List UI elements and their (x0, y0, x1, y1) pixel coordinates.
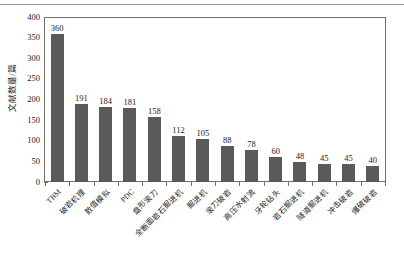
bar-value-label: 60 (264, 147, 288, 156)
bar-item: 112 (166, 18, 190, 182)
bar-item: 48 (288, 18, 312, 182)
y-tick-label: 400 (0, 13, 44, 21)
bar-item: 78 (239, 18, 263, 182)
bar-value-label: 45 (312, 154, 336, 163)
bar (75, 104, 88, 182)
bar-item: 191 (69, 18, 93, 182)
bar-value-label: 181 (118, 98, 142, 107)
bar-item: 40 (361, 18, 385, 182)
bar-item: 60 (264, 18, 288, 182)
bar-item: 158 (142, 18, 166, 182)
bar (148, 117, 161, 182)
y-tick-label: 0 (0, 178, 44, 186)
bar-item: 45 (336, 18, 360, 182)
bar-item: 360 (45, 18, 69, 182)
bar-value-label: 360 (45, 24, 69, 33)
bar-value-label: 48 (288, 152, 312, 161)
bar-item: 45 (312, 18, 336, 182)
bar-value-label: 45 (336, 154, 360, 163)
bar-value-label: 158 (142, 107, 166, 116)
bar-item: 181 (118, 18, 142, 182)
bar-value-label: 184 (94, 97, 118, 106)
bar (51, 34, 64, 182)
bar-value-label: 105 (191, 129, 215, 138)
y-tick-label: 200 (0, 95, 44, 103)
y-tick-label: 150 (0, 116, 44, 124)
bar-chart-figure: 文献数量/篇 050100150200250300350400 36019118… (0, 0, 404, 259)
bar-value-label: 112 (166, 126, 190, 135)
bar-value-label: 88 (215, 136, 239, 145)
y-tick-label: 100 (0, 136, 44, 144)
y-tick-label: 250 (0, 74, 44, 82)
y-tick-label: 350 (0, 33, 44, 41)
y-tick-label: 300 (0, 54, 44, 62)
y-tick-label: 50 (0, 157, 44, 165)
bar-item: 184 (94, 18, 118, 182)
bar-value-label: 78 (239, 140, 263, 149)
bar-value-label: 191 (69, 94, 93, 103)
x-tick-mark (45, 182, 46, 186)
bar-value-label: 40 (361, 156, 385, 165)
